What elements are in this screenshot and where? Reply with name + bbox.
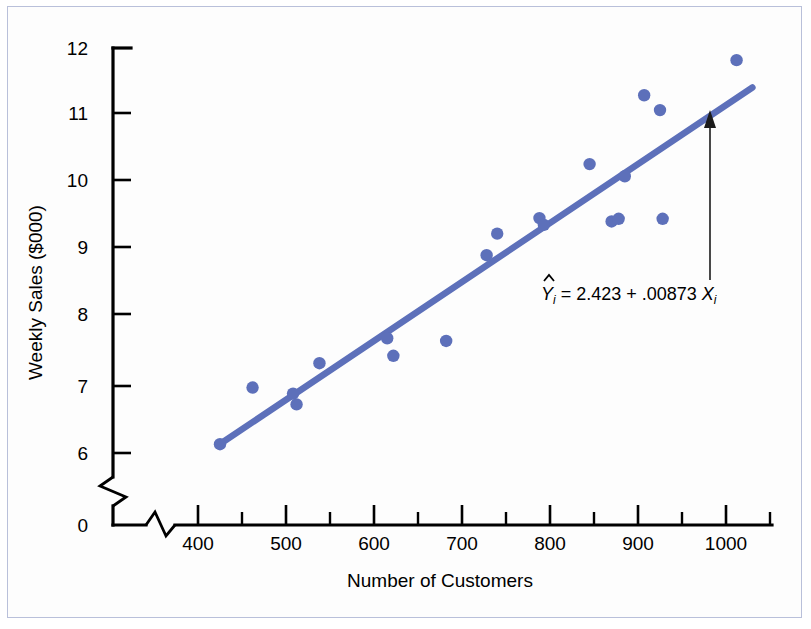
x-tick-label-900: 900 — [622, 533, 654, 554]
y-axis — [100, 48, 131, 525]
equation-x-subscript: i — [714, 293, 717, 307]
y-hat-caret-icon — [544, 275, 554, 281]
y-tick-label-11: 11 — [68, 103, 88, 124]
x-tick-label-500: 500 — [270, 533, 302, 554]
data-point — [214, 438, 226, 450]
data-point — [290, 398, 302, 410]
data-point — [583, 158, 595, 170]
x-axis-break-icon — [146, 512, 175, 536]
y-tick-label-7: 7 — [77, 376, 88, 397]
x-axis — [113, 505, 772, 536]
y-tick-label-10: 10 — [67, 170, 88, 191]
x-axis-title: Number of Customers — [347, 570, 533, 591]
y-tick-label-6: 6 — [77, 443, 88, 464]
data-point — [440, 335, 452, 347]
chart-page: 12 11 10 9 8 7 6 0 Weekly Sales ($000) — [0, 0, 811, 629]
data-point — [480, 249, 492, 261]
data-point — [491, 227, 503, 239]
data-point — [381, 332, 393, 344]
equation-body: = 2.423 + .00873 — [556, 284, 702, 304]
x-tick-label-600: 600 — [358, 533, 390, 554]
y-axis-break-icon — [100, 477, 126, 506]
equation-x-symbol: X — [701, 284, 715, 304]
y-axis-title: Weekly Sales ($000) — [25, 205, 46, 380]
x-tick-label-400: 400 — [182, 533, 214, 554]
regression-equation-label: Yi = 2.423 + .00873 Xi — [541, 284, 717, 307]
scatter-plot: 12 11 10 9 8 7 6 0 Weekly Sales ($000) — [0, 0, 811, 629]
x-tick-label-1000: 1000 — [705, 533, 747, 554]
data-point — [656, 213, 668, 225]
y-tick-label-12: 12 — [67, 38, 88, 59]
data-point — [638, 89, 650, 101]
annotation-pointer-arrow — [704, 110, 716, 280]
data-point — [730, 54, 742, 66]
x-tick-label-800: 800 — [534, 533, 566, 554]
data-point — [287, 387, 299, 399]
data-point — [612, 213, 624, 225]
y-tick-label-9: 9 — [77, 237, 88, 258]
data-point — [619, 170, 631, 182]
data-point — [654, 104, 666, 116]
data-points-group — [214, 54, 743, 450]
y-tick-label-0: 0 — [77, 515, 88, 536]
data-point — [538, 219, 550, 231]
y-tick-label-8: 8 — [77, 304, 88, 325]
x-tick-label-700: 700 — [446, 533, 478, 554]
data-point — [246, 381, 258, 393]
data-point — [313, 357, 325, 369]
data-point — [387, 350, 399, 362]
regression-line — [220, 87, 752, 444]
